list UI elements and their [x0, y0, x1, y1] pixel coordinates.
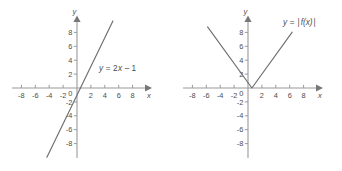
two-graph-figure: -8 -6 -4 -2 2 4 6 8 0 8 6 4 2 -2 -4 -6 -…: [0, 0, 342, 171]
left-y-axis-arrow-icon: [73, 16, 80, 22]
right-x-axis-name: x: [317, 91, 323, 100]
right-eq-function: f(x): [301, 18, 313, 27]
left-y-tick-label: 8: [68, 28, 72, 37]
right-absolute-value-graph: [208, 27, 293, 88]
right-equation-label: y=|f(x)|: [282, 18, 316, 27]
right-eq-close-bar: |: [313, 18, 315, 27]
right-x-tick-label: -4: [217, 91, 224, 100]
left-x-tick-label: -8: [18, 91, 25, 100]
right-y-tick-label: 8: [239, 28, 243, 37]
left-x-tick-label: -4: [46, 91, 53, 100]
left-x-axis-name: x: [146, 91, 152, 100]
right-x-tick-label: 6: [288, 91, 292, 100]
graphs-svg: -8 -6 -4 -2 2 4 6 8 0 8 6 4 2 -2 -4 -6 -…: [0, 0, 342, 171]
left-x-tick-label: -6: [32, 91, 39, 100]
left-y-tick-label: 6: [68, 42, 72, 51]
left-y-axis-name: y: [72, 7, 78, 16]
left-x-tick-label: 2: [89, 91, 93, 100]
left-eq-variable: x: [117, 64, 123, 73]
right-x-tick-label: 8: [302, 91, 306, 100]
left-equation-label: y=2x– 1: [98, 64, 137, 73]
left-eq-y: y: [98, 64, 104, 73]
right-y-tick-label: -8: [237, 139, 244, 148]
right-y-tick-label: -2: [237, 98, 244, 107]
right-y-tick-label: 4: [239, 56, 243, 65]
left-eq-equals: =: [106, 64, 111, 73]
right-x-tick-labels: -8 -6 -4 -2 2 4 6 8: [189, 91, 306, 100]
left-y-tick-label: -2: [66, 98, 73, 107]
right-x-tick-label: -8: [189, 91, 196, 100]
right-eq-y: y: [282, 18, 288, 27]
left-panel: -8 -6 -4 -2 2 4 6 8 0 8 6 4 2 -2 -4 -6 -…: [12, 7, 152, 158]
left-y-tick-label: 2: [68, 70, 72, 79]
left-x-tick-label: 6: [117, 91, 121, 100]
right-y-axis-arrow-icon: [244, 16, 251, 22]
right-eq-open-bar: |: [297, 18, 299, 27]
right-x-tick-label: 2: [260, 91, 264, 100]
right-y-tick-label: 6: [239, 42, 243, 51]
right-y-axis-name: y: [243, 7, 249, 16]
right-x-tick-label: 4: [274, 91, 278, 100]
right-y-tick-label: -6: [237, 125, 244, 134]
left-eq-intercept: – 1: [125, 64, 137, 73]
left-y-tick-label: -6: [66, 125, 73, 134]
right-x-tick-label: -6: [203, 91, 210, 100]
left-x-tick-label: 4: [103, 91, 107, 100]
left-y-tick-label: -8: [66, 139, 73, 148]
right-y-tick-label: -4: [237, 111, 244, 120]
left-x-tick-label: 8: [131, 91, 135, 100]
right-eq-equals: =: [290, 18, 295, 27]
left-line-graph: [47, 21, 113, 157]
left-y-tick-label: 4: [68, 56, 72, 65]
right-panel: -8 -6 -4 -2 2 4 6 8 0 8 6 4 2 -2 -4 -6 -…: [183, 7, 323, 158]
